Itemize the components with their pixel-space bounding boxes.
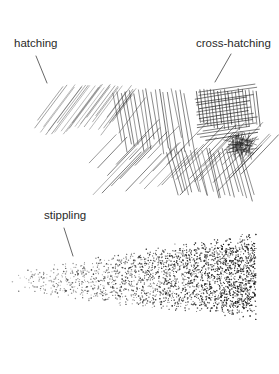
label-cross-hatching: cross-hatching (196, 38, 271, 50)
technique-illustration (0, 0, 279, 374)
drawing-techniques-figure: hatching cross-hatching stippling (0, 0, 279, 374)
label-hatching: hatching (14, 38, 57, 50)
cross-hatching-sample (89, 84, 278, 201)
stippling-sample (12, 234, 257, 320)
label-stippling: stippling (44, 210, 86, 222)
hatching-sample (35, 84, 146, 135)
